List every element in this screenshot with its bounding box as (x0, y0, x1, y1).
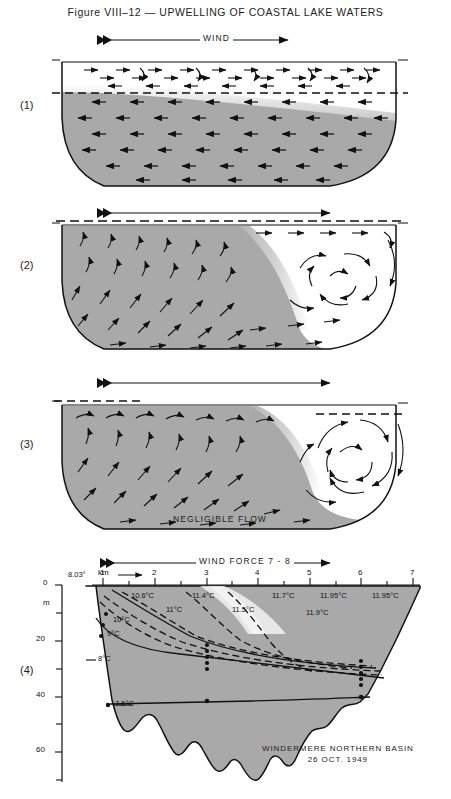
depth-unit-label: m (43, 598, 50, 607)
basin-caption: WINDERMERE NORTHERN BASIN 26 OCT. 1949 (262, 743, 414, 765)
depth-tick-20: 20 (36, 634, 45, 643)
depth-tick-0: 0 (43, 578, 47, 587)
km-tick-7: 7 (410, 568, 414, 577)
depth-axis (55, 585, 62, 782)
surface-temp-5: 11.95°C (372, 591, 399, 600)
km-tick-1: 1 (100, 568, 104, 577)
basin-caption-line2: 26 OCT. 1949 (262, 754, 414, 765)
depth-tick-40: 40 (36, 690, 45, 699)
surface-temp-1: 10.6°C (131, 591, 154, 600)
km-tick-2: 2 (152, 568, 156, 577)
panel-1 (52, 35, 408, 200)
panel-number-4: (4) (20, 664, 33, 676)
isotherm-label-11_9: 11.9°C (306, 608, 328, 617)
isotherm-label-10: 10°C (113, 615, 130, 624)
depth-tick-60: 60 (36, 745, 45, 754)
panel-number-1: (1) (20, 99, 33, 111)
surface-temp-4: 11.95°C (320, 591, 347, 600)
wind-force-label-panel4: WIND FORCE 7 - 8 (196, 556, 294, 566)
wind-label-panel1: WIND (200, 33, 233, 43)
isotherm-label-7_5: 7.5°C (115, 699, 134, 708)
isotherm-label-9: 9°C (107, 629, 120, 638)
km-tick-4: 4 (255, 568, 259, 577)
figure-canvas (0, 0, 451, 799)
figure-title: Figure VIII–12 — UPWELLING OF COASTAL LA… (0, 6, 451, 18)
panel-number-3: (3) (20, 438, 33, 450)
surface-temp-left: 8.03° (68, 570, 86, 579)
isotherm-label-11_5: 11.5°C (232, 605, 254, 614)
km-tick-6: 6 (358, 568, 362, 577)
wind-arrow-panel3 (97, 378, 330, 388)
panel-2 (52, 208, 408, 360)
surface-temp-2: 11.4°C (192, 591, 214, 600)
panel1-water (55, 55, 405, 200)
km-tick-5: 5 (307, 568, 311, 577)
isotherm-label-11: 11°C (166, 605, 182, 614)
isotherm-label-8: 8°C (98, 654, 111, 663)
panel-number-2: (2) (20, 259, 33, 271)
wind-arrow-panel1 (97, 35, 288, 45)
panel3-surface-ticks (52, 401, 408, 403)
figure-root: Figure VIII–12 — UPWELLING OF COASTAL LA… (0, 0, 451, 799)
wind-arrow-panel2 (97, 208, 330, 218)
surface-temp-3: 11.7°C (272, 591, 294, 600)
km-tick-3: 3 (204, 568, 208, 577)
basin-caption-line1: WINDERMERE NORTHERN BASIN (262, 743, 414, 754)
negligible-flow-label: NEGLIGIBLE FLOW (173, 514, 267, 524)
